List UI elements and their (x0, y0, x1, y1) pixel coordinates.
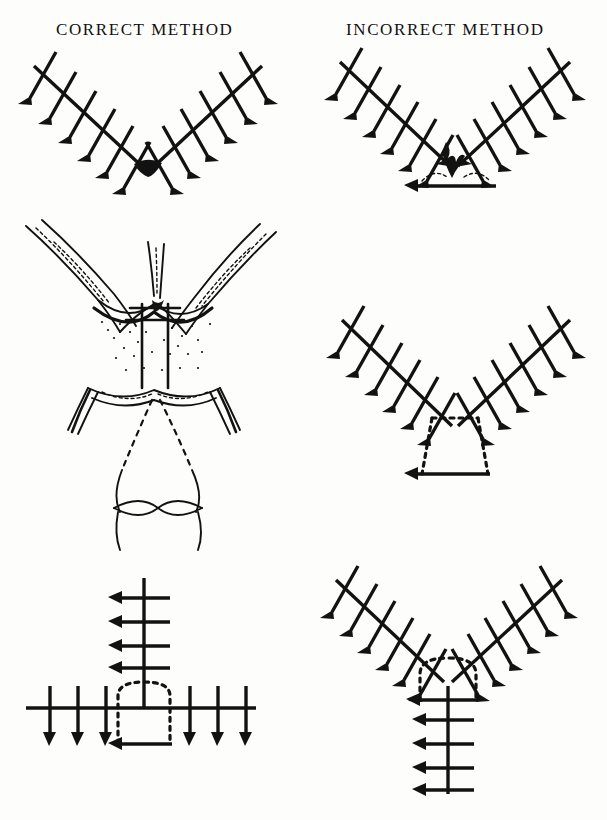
nostril-outline (114, 501, 202, 550)
stitch-group-left (18, 52, 150, 195)
stitch-group-horizontal-left (43, 686, 112, 746)
figure-correct-t-closure (8, 562, 298, 762)
column-header-correct: CORRECT METHOD (56, 20, 233, 40)
figure-correct-v-closure-clean-apex (12, 48, 284, 198)
column-header-incorrect: INCORRECT METHOD (346, 20, 545, 40)
flap-outer-outline-right (158, 224, 276, 334)
suture-line-left (340, 62, 450, 166)
dotted-excess-tissue-trapezoid (422, 418, 488, 474)
suture-line-right (458, 320, 570, 426)
dotted-guide-line-right (160, 400, 192, 470)
figure-incorrect-v-closure-excess-tissue (318, 296, 596, 496)
figure-nasal-lip-anatomy-flaps (2, 212, 302, 507)
stitch-group-left (320, 566, 446, 702)
flap-edge-dashes-right (196, 234, 266, 308)
suture-line-right (458, 62, 570, 166)
stitch-group-tail (412, 713, 474, 796)
stitch-group-horizontal-right (183, 686, 252, 746)
columella-strip (148, 242, 164, 298)
stitch-group-left (326, 306, 455, 446)
flap-tail-left (68, 388, 98, 434)
flap-tail-right (210, 388, 240, 434)
apex-approximated-tissue-wedge (134, 160, 162, 177)
suture-line-left (342, 320, 452, 426)
stitch-group-right (146, 52, 278, 195)
stitch-group-right (457, 306, 586, 446)
stitch-group-left (324, 48, 453, 188)
stitch-group-right (452, 566, 578, 702)
baseline (108, 737, 172, 750)
flap-edge-dashes-left (36, 228, 110, 304)
illustration-page: CORRECT METHOD INCORRECT METHOD (0, 0, 607, 820)
figure-incorrect-y-closure (312, 558, 602, 808)
stitch-group-right (457, 48, 586, 188)
nose-outline (116, 470, 199, 512)
stitch-group-vertical (108, 591, 170, 674)
figure-incorrect-v-closure-bunched-apex (318, 46, 596, 196)
baseline (404, 467, 490, 480)
dotted-guide-line-left (122, 400, 152, 470)
lower-flap-border (88, 388, 220, 406)
baseline (406, 693, 478, 706)
suture-line-right (452, 580, 562, 682)
